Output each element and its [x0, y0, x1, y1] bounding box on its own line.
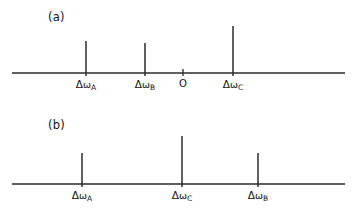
- panel-a: (a) ΔωA ΔωB O ΔωC: [0, 0, 356, 108]
- tick-label-b-delta-omega-c: ΔωC: [172, 190, 192, 202]
- omega-glyph: ω: [179, 190, 187, 201]
- omega-glyph: ω: [79, 190, 87, 201]
- tick-label-a-delta-omega-c: ΔωC: [223, 79, 243, 91]
- tick-label-b-delta-omega-a: ΔωA: [72, 190, 92, 202]
- subscript-glyph: C: [238, 83, 243, 92]
- subscript-glyph: B: [263, 194, 268, 203]
- omega-glyph: ω: [255, 190, 263, 201]
- omega-glyph: ω: [230, 79, 238, 90]
- subscript-glyph: A: [87, 194, 92, 203]
- tick-label-a-delta-omega-a: ΔωA: [76, 79, 96, 91]
- spectra-figure: (a) ΔωA ΔωB O ΔωC (b): [0, 0, 356, 216]
- omega-glyph: ω: [83, 79, 91, 90]
- origin-label-a: O: [179, 79, 187, 89]
- panel-b: (b) ΔωA ΔωC ΔωB: [0, 107, 356, 216]
- tick-label-a-delta-omega-b: ΔωB: [135, 79, 155, 91]
- tick-label-b-delta-omega-b: ΔωB: [248, 190, 268, 202]
- subscript-glyph: A: [91, 83, 96, 92]
- omega-glyph: ω: [142, 79, 150, 90]
- subscript-glyph: C: [187, 194, 192, 203]
- panel-a-plot: [0, 0, 356, 109]
- subscript-glyph: B: [150, 83, 155, 92]
